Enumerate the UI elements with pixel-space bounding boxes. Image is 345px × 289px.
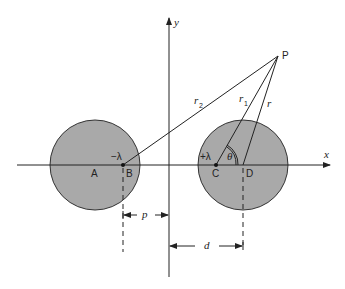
label-B: B <box>126 168 133 179</box>
label-r1-sub: 1 <box>244 100 248 107</box>
diagram-canvas: y x P A B C D −λ +λ θ r 2 r 1 r p d <box>0 0 345 289</box>
label-theta: θ <box>227 150 233 162</box>
label-C: C <box>212 168 219 179</box>
label-pos-lambda: +λ <box>200 151 211 162</box>
point-B-dot <box>121 163 125 167</box>
y-axis-label: y <box>173 16 179 28</box>
label-r2-sub: 2 <box>199 102 203 109</box>
label-neg-lambda: −λ <box>111 151 122 162</box>
label-A: A <box>91 168 98 179</box>
label-r: r <box>267 97 272 109</box>
label-D: D <box>246 168 253 179</box>
label-d: d <box>204 239 210 251</box>
label-p: p <box>141 208 148 220</box>
point-C-dot <box>214 163 218 167</box>
label-P: P <box>282 50 289 61</box>
x-axis-label: x <box>323 148 329 160</box>
